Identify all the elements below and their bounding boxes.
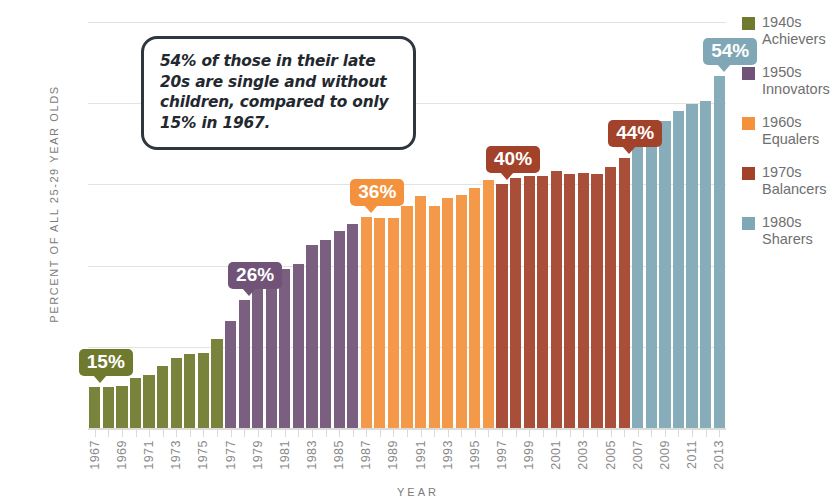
bar xyxy=(211,339,222,428)
x-axis-tick xyxy=(339,430,340,437)
x-axis-tick xyxy=(95,430,96,437)
x-axis-tick xyxy=(461,430,462,437)
x-axis-tick xyxy=(366,430,367,437)
bar xyxy=(157,366,168,428)
bar xyxy=(673,111,684,428)
x-axis-tick xyxy=(719,430,720,437)
bar xyxy=(116,386,127,428)
legend-swatch-icon xyxy=(742,167,755,180)
bar xyxy=(103,387,114,428)
legend-item[interactable]: 1970sBalancers xyxy=(742,164,836,197)
x-axis-tick xyxy=(475,430,476,437)
bar xyxy=(279,269,290,428)
bar xyxy=(320,240,331,428)
x-axis-tick-label: 1985 xyxy=(332,440,346,470)
x-axis-title: YEAR xyxy=(0,486,836,498)
x-axis-tick xyxy=(583,430,584,437)
bar xyxy=(510,178,521,428)
legend-label-decade: 1980s xyxy=(762,214,802,230)
callout-tail xyxy=(242,288,256,296)
x-axis-tick-label: 1977 xyxy=(224,440,238,470)
bar xyxy=(184,354,195,428)
x-axis-tick xyxy=(556,430,557,437)
x-axis-tick-label: 1997 xyxy=(495,440,509,470)
x-axis-tick-label: 1983 xyxy=(305,440,319,470)
x-axis-tick xyxy=(244,430,245,437)
bar xyxy=(496,184,507,428)
bar xyxy=(415,196,426,428)
x-axis-tick xyxy=(421,430,422,437)
x-axis-tick xyxy=(706,430,707,437)
value-callout: 26% xyxy=(228,262,282,289)
legend-label: 1970sBalancers xyxy=(762,164,826,197)
x-axis-tick xyxy=(678,430,679,437)
legend-label-name: Sharers xyxy=(762,231,813,248)
x-axis-tick xyxy=(380,430,381,437)
bar xyxy=(171,358,182,428)
legend-label-decade: 1940s xyxy=(762,14,802,30)
legend-swatch-icon xyxy=(742,217,755,230)
x-axis-tick xyxy=(434,430,435,437)
legend-label-decade: 1960s xyxy=(762,114,802,130)
value-callout: 40% xyxy=(486,146,540,173)
x-axis-tick-label: 1969 xyxy=(115,440,129,470)
annotation-text: 54% of those in their late 20s are singl… xyxy=(160,51,397,134)
bar xyxy=(714,76,725,428)
callout-tail xyxy=(717,64,731,72)
x-axis-tick xyxy=(651,430,652,437)
legend-swatch-icon xyxy=(742,67,755,80)
legend-item[interactable]: 1980sSharers xyxy=(742,214,836,247)
value-callout-label: 40% xyxy=(494,148,532,169)
bar xyxy=(619,158,630,428)
x-axis-tick xyxy=(543,430,544,437)
bar xyxy=(429,206,440,428)
bar-chart: PERCENT OF ALL 25-29 YEAR OLDS 60%50%40%… xyxy=(0,0,836,502)
value-callout: 15% xyxy=(79,349,133,376)
x-axis-tick xyxy=(611,430,612,437)
legend-item[interactable]: 1950sInnovators xyxy=(742,64,836,97)
bar xyxy=(239,300,250,428)
legend-label: 1940sAchievers xyxy=(762,14,826,47)
x-axis-tick xyxy=(692,430,693,437)
x-axis-tick xyxy=(176,430,177,437)
bar xyxy=(456,195,467,428)
legend-label: 1960sEqualers xyxy=(762,114,819,147)
value-callout-label: 36% xyxy=(358,181,396,202)
x-axis-tick-label: 1979 xyxy=(251,440,265,470)
bar xyxy=(578,173,589,428)
x-axis-tick xyxy=(665,430,666,437)
x-axis-tick-label: 1973 xyxy=(169,440,183,470)
x-axis-tick-label: 1999 xyxy=(522,440,536,470)
x-axis-tick-label: 1967 xyxy=(88,440,102,470)
x-axis-tick xyxy=(326,430,327,437)
bar xyxy=(225,321,236,428)
bar xyxy=(388,218,399,428)
legend-item[interactable]: 1960sEqualers xyxy=(742,114,836,147)
x-axis-tick-label: 1995 xyxy=(468,440,482,470)
x-axis-tick xyxy=(298,430,299,437)
x-axis-tick xyxy=(488,430,489,437)
x-axis-tick xyxy=(122,430,123,437)
bar xyxy=(659,121,670,428)
legend-item[interactable]: 1940sAchievers xyxy=(742,14,836,47)
legend-swatch-icon xyxy=(742,117,755,130)
bar xyxy=(374,218,385,428)
legend-label: 1980sSharers xyxy=(762,214,813,247)
legend: 1940sAchievers1950sInnovators1960sEquale… xyxy=(742,14,836,264)
bar xyxy=(646,131,657,428)
x-axis-tick xyxy=(353,430,354,437)
bar xyxy=(361,217,372,428)
legend-label-decade: 1950s xyxy=(762,64,802,80)
x-axis-tick-label: 2001 xyxy=(549,440,563,470)
x-axis-tick xyxy=(312,430,313,437)
value-callout-label: 44% xyxy=(616,122,654,143)
callout-tail xyxy=(622,146,636,154)
x-axis-tick xyxy=(448,430,449,437)
callout-tail xyxy=(93,375,107,383)
bar xyxy=(524,176,535,428)
legend-label-decade: 1970s xyxy=(762,164,802,180)
annotation-callout-box: 54% of those in their late 20s are singl… xyxy=(141,36,416,150)
bar xyxy=(143,375,154,428)
x-axis-tick xyxy=(407,430,408,437)
bar xyxy=(89,387,100,428)
